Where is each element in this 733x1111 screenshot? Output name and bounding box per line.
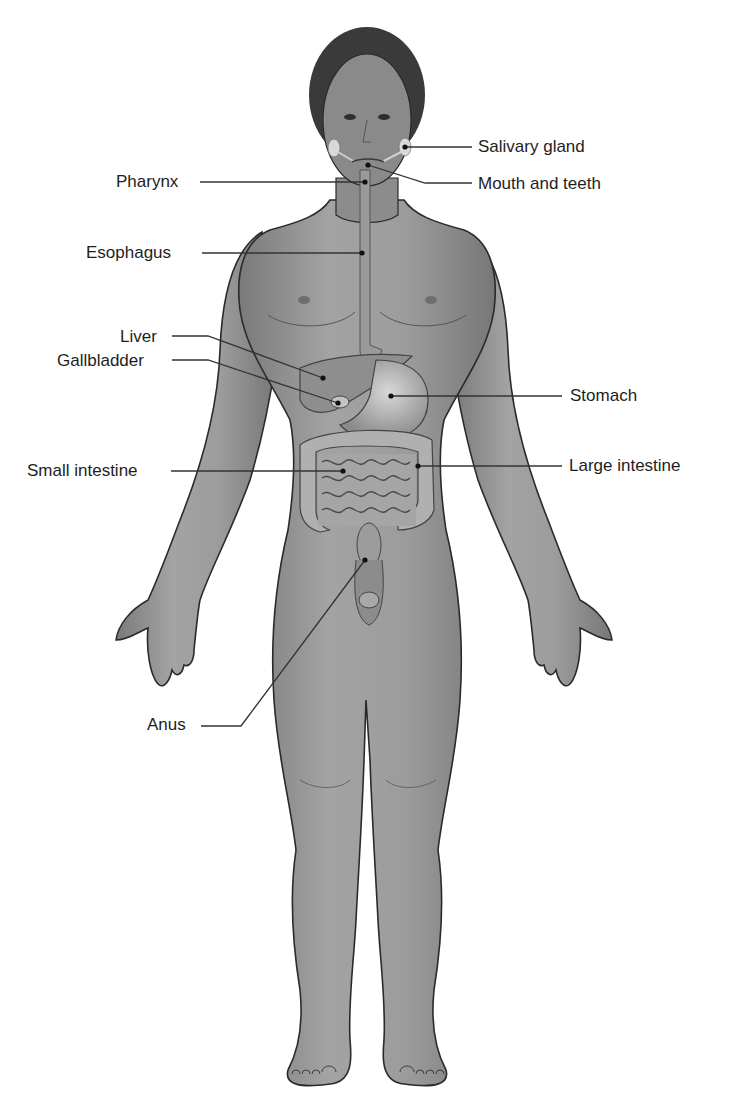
digestive-system-figure: Salivary gland Mouth and teeth Pharynx E… [0, 0, 733, 1111]
leader-dot-esophagus [359, 250, 364, 255]
leader-dot-liver [320, 375, 325, 380]
label-esophagus: Esophagus [86, 243, 171, 263]
label-small-intestine: Small intestine [27, 461, 138, 481]
label-anus: Anus [147, 715, 186, 735]
left-eye [344, 114, 356, 120]
label-large-intestine: Large intestine [569, 456, 681, 476]
leader-dot-stomach [388, 393, 393, 398]
label-gallbladder: Gallbladder [57, 351, 144, 371]
leader-dot-small-intestine [340, 468, 345, 473]
label-pharynx: Pharynx [116, 172, 178, 192]
leader-dot-gallbladder [335, 400, 340, 405]
leader-dot-pharynx [362, 179, 367, 184]
label-liver: Liver [120, 327, 157, 347]
leader-dot-salivary-gland [402, 144, 407, 149]
leader-dot-mouth-and-teeth [365, 162, 370, 167]
leader-dot-large-intestine [415, 463, 420, 468]
right-eye [378, 114, 390, 120]
human-body-illustration [0, 0, 733, 1111]
label-stomach: Stomach [570, 386, 637, 406]
leader-dot-anus [362, 557, 367, 562]
small-intestine [318, 454, 416, 526]
label-salivary-gland: Salivary gland [478, 137, 585, 157]
salivary-gland-left [328, 139, 340, 157]
label-mouth-and-teeth: Mouth and teeth [478, 174, 601, 194]
